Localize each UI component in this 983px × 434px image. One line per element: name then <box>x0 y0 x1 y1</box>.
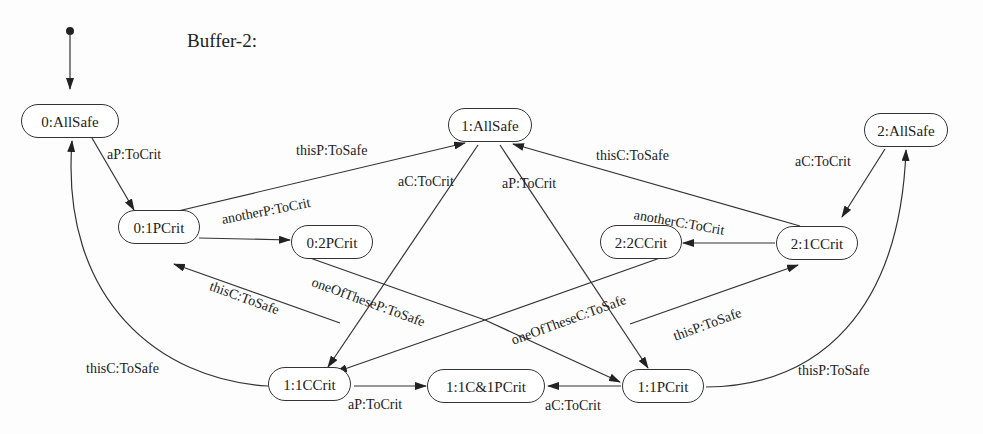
diagram-title: Buffer-2: <box>187 30 257 52</box>
edge-label: aC:ToCrit <box>545 398 601 414</box>
state-2-1ccrit: 2:1CCrit <box>776 226 858 260</box>
state-2-allsafe: 2:AllSafe <box>864 113 948 147</box>
state-1-1ccrit: 1:1CCrit <box>268 367 351 401</box>
edge-label: aP:ToCrit <box>348 397 402 413</box>
initial-state-dot <box>66 27 74 35</box>
state-0-allsafe: 0:AllSafe <box>21 104 119 138</box>
state-1-allsafe: 1:AllSafe <box>448 108 532 142</box>
edge-label: thisP:ToSafe <box>798 363 869 379</box>
state-0-1pcrit: 0:1PCrit <box>118 210 200 244</box>
state-diagram: Buffer-2: 0:AllSafe 1:AllSafe 2:AllSafe … <box>0 0 983 434</box>
edge-label: aC:ToCrit <box>398 174 454 190</box>
state-2-2ccrit: 2:2CCrit <box>600 225 682 259</box>
edge-label: thisP:ToSafe <box>296 143 367 159</box>
edge-label: aP:ToCrit <box>502 176 556 192</box>
state-0-2pcrit: 0:2PCrit <box>291 225 373 259</box>
edge-label: aP:ToCrit <box>107 147 161 163</box>
state-1-1pcrit: 1:1PCrit <box>622 369 704 403</box>
edge-label: thisC:ToSafe <box>86 361 159 377</box>
edge-label: thisC:ToSafe <box>596 148 669 164</box>
state-1-1c1pcrit: 1:1C&1PCrit <box>427 369 545 403</box>
edge-label: aC:ToCrit <box>795 154 851 170</box>
